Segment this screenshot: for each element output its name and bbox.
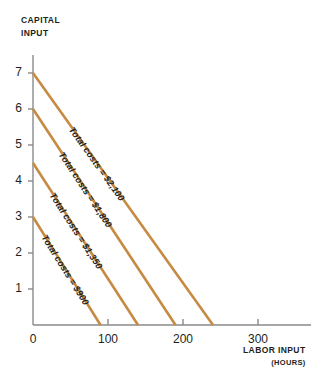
x-tick-label: 100 bbox=[88, 332, 128, 346]
x-tick-label: 300 bbox=[238, 332, 278, 346]
y-axis-title-line1: CAPITAL bbox=[21, 15, 60, 25]
x-axis-title-units: (HOURS) bbox=[243, 357, 305, 370]
chart-canvas bbox=[0, 0, 330, 379]
y-axis-title: CAPITAL INPUT bbox=[21, 14, 60, 39]
x-axis-title: LABOR INPUT (HOURS) bbox=[243, 344, 305, 369]
y-tick-label: 2 bbox=[6, 245, 22, 259]
x-axis-title-main: LABOR INPUT bbox=[243, 345, 305, 355]
y-tick-label: 6 bbox=[6, 101, 22, 115]
x-tick-marks bbox=[108, 319, 258, 325]
y-tick-label: 4 bbox=[6, 173, 22, 187]
y-tick-label: 3 bbox=[6, 209, 22, 223]
isocost-chart: CAPITAL INPUT LABOR INPUT (HOURS) 123456… bbox=[0, 0, 330, 379]
y-tick-label: 7 bbox=[6, 65, 22, 79]
x-tick-label: 200 bbox=[163, 332, 203, 346]
x-tick-label: 0 bbox=[13, 332, 53, 346]
y-axis-title-line2: INPUT bbox=[21, 28, 49, 38]
y-tick-label: 5 bbox=[6, 137, 22, 151]
y-tick-marks bbox=[28, 73, 33, 289]
y-tick-label: 1 bbox=[6, 281, 22, 295]
